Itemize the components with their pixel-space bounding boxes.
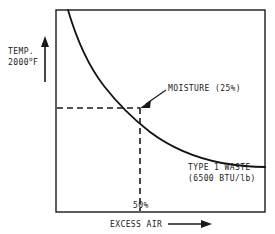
up-arrow-icon <box>41 36 49 47</box>
y-axis-label-unit: F <box>33 58 38 67</box>
annotation-moisture: MOISTURE (25%) <box>168 84 241 94</box>
x-axis-label: EXCESS AIR <box>110 220 162 230</box>
y-axis-label-line2: 2000oF <box>8 58 38 68</box>
chart-figure: TEMP. 2000oF EXCESS AIR MOISTURE (25%) T… <box>0 0 275 234</box>
y-axis-label-value: 2000 <box>8 58 29 67</box>
x-tick-label-50: 50% <box>133 201 149 211</box>
right-arrow-icon <box>201 220 212 228</box>
series-name: TYPE 1 WASTE <box>188 162 256 173</box>
series-legend-label: TYPE 1 WASTE (6500 BTU/lb) <box>188 162 256 184</box>
series-detail: (6500 BTU/lb) <box>188 173 256 184</box>
chart-canvas <box>0 0 275 234</box>
y-axis-label: TEMP. 2000oF <box>8 47 38 68</box>
